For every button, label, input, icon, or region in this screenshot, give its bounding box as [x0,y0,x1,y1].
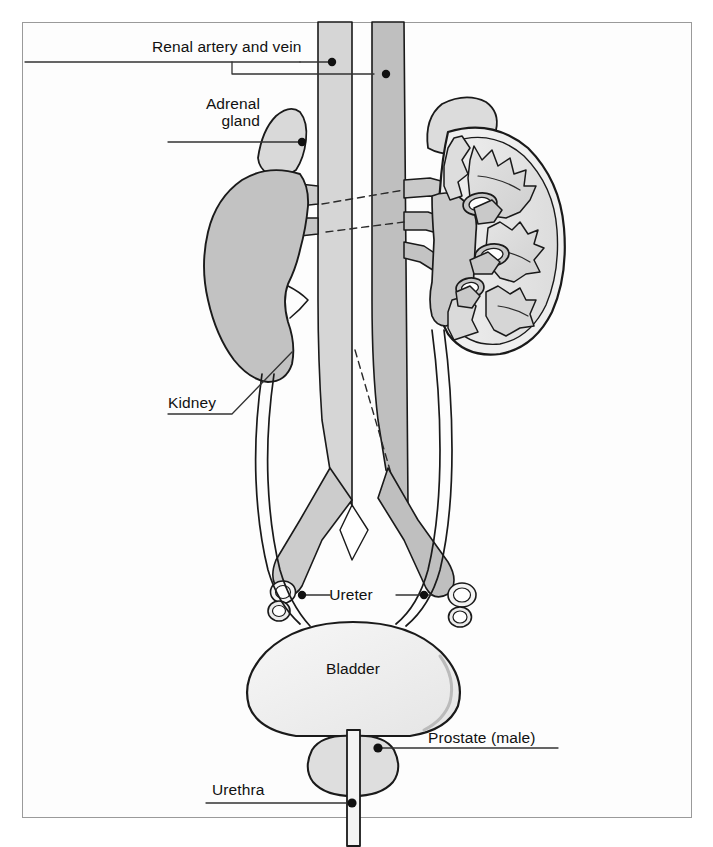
label-ureter: Ureter [296,586,406,603]
abdominal-aorta [372,22,408,505]
label-adrenal-gland: Adrenal gland [78,95,260,130]
urinary-system-figure: Renal artery and vein Adrenal gland Kidn… [0,0,713,847]
inferior-vena-cava [318,22,352,505]
label-adrenal-gland-line1: Adrenal [78,95,260,112]
left-kidney [204,170,308,382]
label-adrenal-gland-line2: gland [78,112,260,129]
label-urethra: Urethra [212,781,264,798]
label-bladder: Bladder [288,660,418,677]
label-renal-artery-and-vein: Renal artery and vein [152,38,301,55]
bladder [247,622,460,736]
label-kidney: Kidney [168,394,216,411]
label-prostate-male: Prostate (male) [428,729,535,746]
right-kidney-cross-section [430,128,565,355]
urethra [347,730,360,846]
